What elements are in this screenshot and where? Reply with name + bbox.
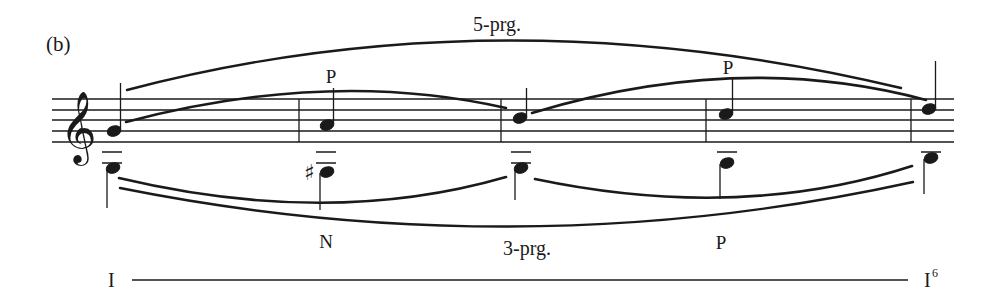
note-head-upper-4 <box>718 107 735 121</box>
slur-upper-1 <box>126 91 506 122</box>
slur-upper-2 <box>532 78 926 113</box>
note-head-lower-5 <box>923 151 940 165</box>
note-head-upper-5 <box>921 102 938 116</box>
five-progression-label: 5-prg. <box>473 14 521 34</box>
music-score: 𝄞 ♯ <box>0 0 994 302</box>
treble-clef-icon: 𝄞 <box>60 90 97 166</box>
upper-passing-tone-label-2: P <box>723 58 734 77</box>
note-head-lower-2 <box>319 165 336 179</box>
harmony-end-numeral: I <box>924 269 931 291</box>
note-head-upper-3 <box>512 111 529 125</box>
slur-5-prg <box>127 40 901 90</box>
lower-passing-tone-label: P <box>716 233 727 252</box>
harmony-start-label: I <box>108 270 115 290</box>
harmony-end-label: I6 <box>924 270 931 290</box>
lower-neighbor-label: N <box>319 232 333 251</box>
three-progression-label: 3-prg. <box>503 238 551 258</box>
sharp-icon: ♯ <box>304 160 315 185</box>
figure-label: (b) <box>46 34 71 55</box>
slur-3-prg <box>120 182 913 227</box>
upper-passing-tone-label-1: P <box>326 67 337 86</box>
lower-slurs <box>119 166 913 227</box>
note-head-lower-4 <box>719 156 736 170</box>
staff <box>52 99 954 142</box>
harmony-end-inversion: 6 <box>932 267 938 279</box>
note-head-upper-1 <box>106 124 123 138</box>
